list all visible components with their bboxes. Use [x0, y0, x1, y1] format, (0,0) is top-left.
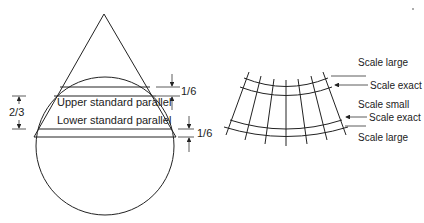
- speck-mark: [412, 8, 414, 10]
- cone-globe-diagram: Upper standard parallel Lower standard p…: [9, 14, 212, 215]
- scale-large-top-label: Scale large: [358, 57, 408, 68]
- scale-exact-upper-label: Scale exact: [370, 80, 422, 91]
- scale-exact-lower-label: Scale exact: [369, 112, 421, 123]
- meridian-2: [245, 76, 261, 140]
- dim-1-6-bottom-label: 1/6: [197, 127, 212, 139]
- projected-grid-diagram: Scale large Scale exact Scale small Scal…: [224, 57, 422, 146]
- meridian-7: [323, 72, 346, 135]
- meridian-5: [298, 79, 307, 144]
- scale-large-bottom-label: Scale large: [358, 132, 408, 143]
- dim-2-3-label: 2/3: [9, 106, 24, 118]
- meridian-3: [265, 79, 274, 144]
- dim-1-6-top-label: 1/6: [181, 85, 196, 97]
- lower-parallel-label: Lower standard parallel: [57, 114, 171, 126]
- meridian-1: [226, 72, 249, 135]
- secant-conic-projection-figure: Upper standard parallel Lower standard p…: [0, 0, 424, 223]
- upper-parallel-label: Upper standard parallel: [57, 96, 171, 108]
- meridian-6: [311, 76, 327, 140]
- scale-small-label: Scale small: [358, 99, 409, 110]
